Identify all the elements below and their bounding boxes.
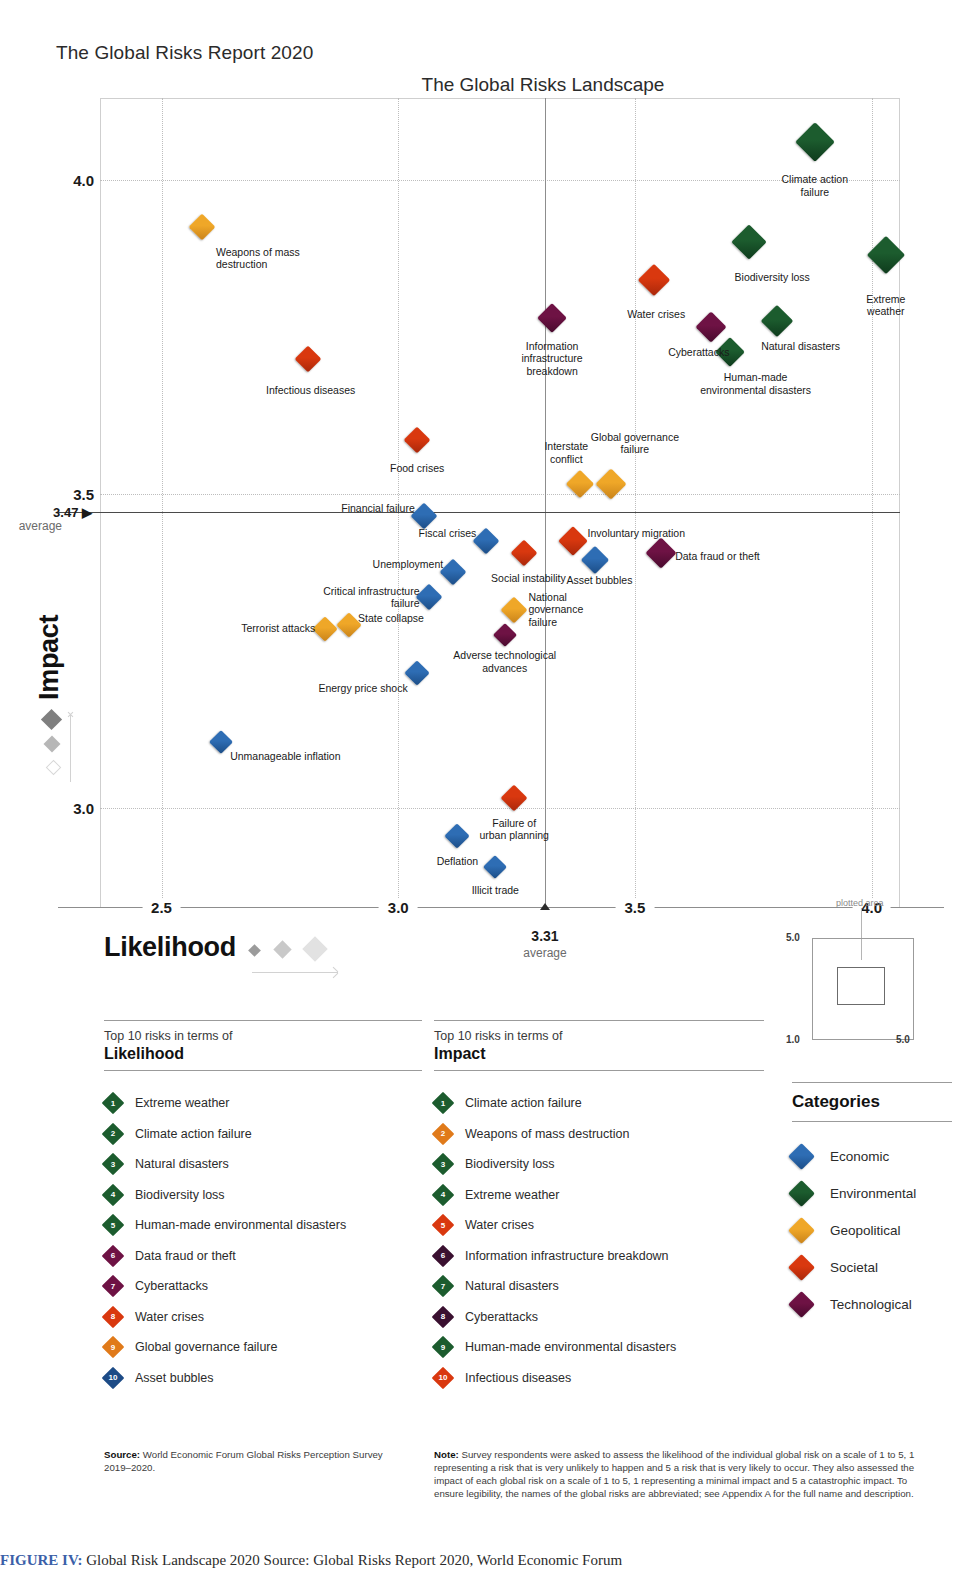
rank-list-item[interactable]: 5Water crises: [434, 1210, 764, 1241]
divider: [792, 1121, 952, 1122]
risk-point-label: Illicit trade: [472, 884, 519, 897]
rank-item-label: Biodiversity loss: [465, 1157, 555, 1171]
plot-frame: [100, 98, 900, 908]
rank-list-item[interactable]: 10Asset bubbles: [104, 1363, 422, 1394]
x-gridline: [635, 98, 636, 908]
risk-point-label: Climate action failure: [782, 173, 849, 198]
risk-point-label: Unemployment: [373, 558, 444, 571]
x-axis: 2.53.03.54.03.31average: [58, 907, 944, 908]
rank-item-label: Extreme weather: [135, 1096, 229, 1110]
inset-top-left-value: 5.0: [786, 932, 800, 943]
rank-item-label: Water crises: [135, 1310, 204, 1324]
rank-item-label: Natural disasters: [135, 1157, 229, 1171]
rank-item-label: Biodiversity loss: [135, 1188, 225, 1202]
rank-diamond-icon: 10: [104, 1369, 122, 1387]
figure-caption-text: Global Risk Landscape 2020 Source: Globa…: [82, 1552, 622, 1568]
rank-list-item[interactable]: 6Data fraud or theft: [104, 1241, 422, 1272]
plotted-area-rect: [837, 967, 885, 1005]
risk-landscape-plot: Climate action failureExtreme weatherBio…: [100, 98, 900, 908]
rank-list-item[interactable]: 10Infectious diseases: [434, 1363, 764, 1394]
rank-diamond-icon: 10: [434, 1369, 452, 1387]
x-average-marker: [540, 903, 550, 910]
rank-list-item[interactable]: 4Biodiversity loss: [104, 1180, 422, 1211]
risk-point-label: Social instability: [491, 572, 566, 585]
risk-point-label: Asset bubbles: [566, 574, 632, 587]
x-average-line: [545, 98, 546, 908]
risk-point-label: Failure of urban planning: [479, 817, 548, 842]
x-gridline: [162, 98, 163, 908]
method-note-label: Note:: [434, 1449, 459, 1460]
x-average-sublabel: average: [523, 946, 566, 960]
rank-item-label: Climate action failure: [135, 1127, 252, 1141]
rank-item-label: Cyberattacks: [135, 1279, 208, 1293]
y-gridline: [100, 180, 900, 181]
rank-list-item[interactable]: 2Climate action failure: [104, 1119, 422, 1150]
category-diamond-icon: [788, 1217, 815, 1244]
category-legend-item[interactable]: Environmental: [792, 1175, 952, 1212]
risk-point-label: Biodiversity loss: [735, 271, 810, 284]
y-axis-tick: 3.5: [73, 485, 94, 502]
risk-point-label: Adverse technological advances: [453, 649, 556, 674]
rank-list-item[interactable]: 8Water crises: [104, 1302, 422, 1333]
inset-caption: plotted area: [836, 898, 884, 909]
rank-item-label: Extreme weather: [465, 1188, 559, 1202]
top-likelihood-list: 1Extreme weather2Climate action failure3…: [104, 1088, 422, 1393]
category-legend-item[interactable]: Economic: [792, 1138, 952, 1175]
rank-diamond-icon: 9: [434, 1338, 452, 1356]
rank-diamond-icon: 6: [104, 1247, 122, 1265]
rank-list-item[interactable]: 3Natural disasters: [104, 1149, 422, 1180]
rank-list-item[interactable]: 8Cyberattacks: [434, 1302, 764, 1333]
rank-list-item[interactable]: 9Global governance failure: [104, 1332, 422, 1363]
rank-list-item[interactable]: 6Information infrastructure breakdown: [434, 1241, 764, 1272]
x-average-value: 3.31: [531, 928, 558, 944]
rank-diamond-icon: 8: [104, 1308, 122, 1326]
x-axis-tick: 3.5: [615, 899, 654, 916]
category-legend-item[interactable]: Geopolitical: [792, 1212, 952, 1249]
rank-item-label: Data fraud or theft: [135, 1249, 236, 1263]
y-gridline: [100, 808, 900, 809]
risk-point-label: Deflation: [437, 855, 478, 868]
categories-panel: Categories EconomicEnvironmentalGeopolit…: [792, 1082, 952, 1323]
rank-list-item[interactable]: 9Human-made environmental disasters: [434, 1332, 764, 1363]
rank-list-item[interactable]: 4Extreme weather: [434, 1180, 764, 1211]
risk-point-label: Critical infrastructure failure: [323, 585, 419, 610]
report-title: The Global Risks Report 2020: [56, 42, 313, 64]
panel-heading: Impact: [434, 1045, 764, 1063]
category-legend-item[interactable]: Technological: [792, 1286, 952, 1323]
rank-item-label: Infectious diseases: [465, 1371, 571, 1385]
divider: [104, 1070, 422, 1071]
category-legend-item[interactable]: Societal: [792, 1249, 952, 1286]
y-axis-title: Impact: [34, 615, 65, 700]
x-gridline: [872, 98, 873, 908]
risk-point-label: Information infrastructure breakdown: [521, 340, 582, 378]
divider: [434, 1020, 764, 1021]
rank-list-item[interactable]: 7Cyberattacks: [104, 1271, 422, 1302]
rank-list-item[interactable]: 7Natural disasters: [434, 1271, 764, 1302]
rank-diamond-icon: 3: [434, 1155, 452, 1173]
rank-list-item[interactable]: 2Weapons of mass destruction: [434, 1119, 764, 1150]
rank-list-item[interactable]: 5Human-made environmental disasters: [104, 1210, 422, 1241]
y-average-line: [56, 512, 900, 513]
risk-point-label: Cyberattacks: [668, 346, 729, 359]
risk-point-label: Weapons of mass destruction: [216, 246, 300, 271]
source-note-text: World Economic Forum Global Risks Percep…: [104, 1449, 383, 1473]
category-diamond-icon: [788, 1180, 815, 1207]
rank-list-item[interactable]: 3Biodiversity loss: [434, 1149, 764, 1180]
rank-diamond-icon: 7: [104, 1277, 122, 1295]
rank-diamond-icon: 5: [434, 1216, 452, 1234]
rank-diamond-icon: 4: [434, 1186, 452, 1204]
rank-diamond-icon: 1: [434, 1094, 452, 1112]
risk-point-label: National governance failure: [528, 591, 583, 629]
risk-point-label: Involuntary migration: [588, 527, 685, 540]
figure-caption: FIGURE IV: Global Risk Landscape 2020 So…: [0, 1552, 966, 1569]
y-axis-tick: 4.0: [73, 171, 94, 188]
method-note-text: Survey respondents were asked to assess …: [434, 1449, 914, 1499]
rank-diamond-icon: 8: [434, 1308, 452, 1326]
rank-list-item[interactable]: 1Extreme weather: [104, 1088, 422, 1119]
categories-title: Categories: [792, 1092, 952, 1112]
rank-item-label: Water crises: [465, 1218, 534, 1232]
plotted-area-inset: [812, 938, 914, 1040]
rank-diamond-icon: 7: [434, 1277, 452, 1295]
rank-list-item[interactable]: 1Climate action failure: [434, 1088, 764, 1119]
top-likelihood-panel: Top 10 risks in terms of Likelihood 1Ext…: [104, 1020, 422, 1393]
